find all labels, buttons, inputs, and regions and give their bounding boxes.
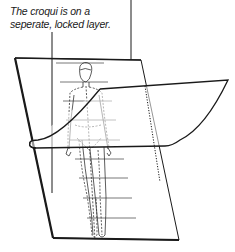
croqui-layers-diagram xyxy=(0,0,235,252)
